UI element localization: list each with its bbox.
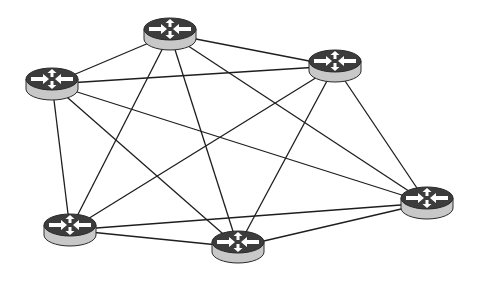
router-icon [401,187,453,219]
link-r2-r3 [52,66,335,84]
link-r1-r5 [70,34,170,230]
link-r2-r6 [238,66,335,247]
link-r4-r5 [70,203,427,230]
network-mesh-diagram [0,0,480,283]
router-icon [309,50,361,82]
link-r3-r5 [52,84,70,230]
router-icon [212,231,264,263]
routers-layer [26,18,453,263]
router-icon [26,68,78,100]
link-r2-r4 [335,66,427,203]
link-r1-r6 [170,34,238,247]
router-icon [44,214,96,246]
router-icon [144,18,196,50]
links-layer [52,34,427,247]
link-r3-r4 [52,84,427,203]
link-r2-r5 [70,66,335,230]
